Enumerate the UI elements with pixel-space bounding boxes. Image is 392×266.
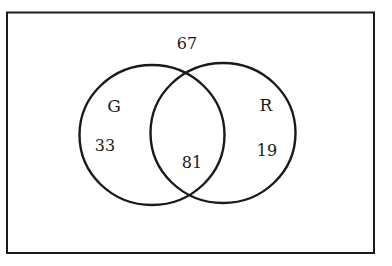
set-g-label: G [107,96,121,116]
set-r-label: R [260,95,274,115]
set-r-circle [151,63,296,203]
intersection-value: 81 [182,153,202,172]
venn-diagram: 67 G 33 R 19 81 [0,0,392,266]
set-g-only-value: 33 [95,136,115,155]
outside-value: 67 [177,34,197,53]
set-r-only-value: 19 [257,141,277,160]
set-g-circle [80,65,225,205]
